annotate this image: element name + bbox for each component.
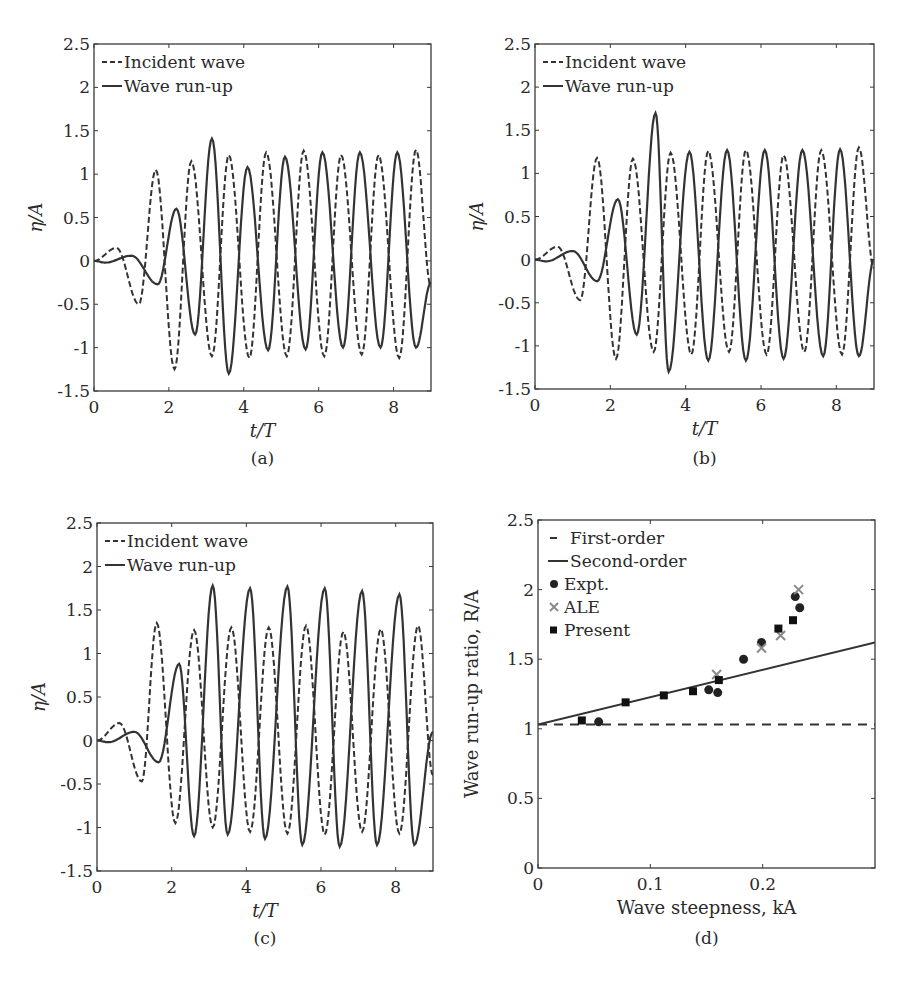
y-tick-label: 1	[523, 719, 534, 739]
legend-label: Incident wave	[124, 52, 245, 72]
y-tick-label: 0.5	[63, 208, 90, 228]
panel-caption: (b)	[692, 448, 716, 468]
panel-b-chart: 02468-1.5-1-0.500.511.522.5t/Tη/A(b)Inci…	[466, 34, 874, 468]
wave-runup-line	[535, 113, 874, 372]
legend-label: Present	[564, 620, 630, 640]
x-axis-label: t/T	[692, 418, 719, 439]
y-tick-label: -1	[73, 338, 90, 358]
x-tick-label: 6	[313, 397, 324, 417]
y-tick-label: -1.5	[60, 861, 93, 881]
x-tick-label: 8	[831, 395, 842, 415]
expt-marker	[713, 688, 722, 697]
expt-marker	[594, 717, 603, 726]
x-tick-label: 0	[533, 874, 544, 894]
y-tick-label: 0.5	[66, 687, 93, 707]
legend-label: Incident wave	[127, 531, 248, 551]
x-tick-label: 0	[530, 395, 541, 415]
legend-label: First-order	[570, 528, 665, 548]
x-tick-label: 2	[605, 395, 616, 415]
present-marker	[689, 687, 697, 695]
x-tick-label: 8	[390, 877, 401, 897]
y-tick-label: 1	[520, 163, 531, 183]
present-marker	[715, 676, 723, 684]
y-tick-label: 0	[520, 250, 531, 270]
plot-series	[97, 586, 433, 847]
plot-series	[535, 113, 874, 372]
plot-area-frame	[538, 520, 875, 868]
y-tick-label: -0.5	[60, 774, 93, 794]
legend-label: Wave run-up	[127, 555, 236, 575]
present-marker	[622, 698, 630, 706]
present-marker	[789, 616, 797, 624]
panel-a-chart: 02468-1.5-1-0.500.511.522.5t/Tη/A(a)Inci…	[25, 34, 431, 468]
present-marker	[774, 625, 782, 633]
y-axis-label: η/A	[28, 682, 49, 712]
panel-caption: (c)	[254, 928, 277, 948]
panel-d-chart: 00.10.200.511.522.5Wave steepness, kAWav…	[461, 510, 875, 948]
expt-marker	[739, 655, 748, 664]
plot-area-frame	[94, 44, 431, 391]
x-tick-label: 4	[680, 395, 691, 415]
legend-label: Wave run-up	[565, 76, 674, 96]
y-tick-label: 1.5	[66, 600, 93, 620]
legend-swatch	[550, 627, 557, 634]
plot-series	[94, 139, 431, 374]
x-axis-label: t/T	[250, 420, 277, 441]
x-tick-label: 4	[238, 397, 249, 417]
expt-marker	[704, 685, 713, 694]
y-axis-label: η/A	[466, 202, 487, 232]
y-tick-label: 1	[82, 644, 93, 664]
x-axis-label: t/T	[252, 900, 279, 921]
incident-wave-line	[94, 150, 431, 369]
legend-label: Wave run-up	[124, 76, 233, 96]
y-tick-label: -1.5	[57, 381, 90, 401]
wave-runup-line	[97, 586, 433, 847]
y-tick-label: 0.5	[504, 207, 531, 227]
y-tick-label: -1.5	[498, 379, 531, 399]
y-axis-label: Wave run-up ratio, R/A	[461, 589, 482, 798]
y-tick-label: 0	[79, 251, 90, 271]
y-tick-label: -1	[514, 336, 531, 356]
y-tick-label: -1	[76, 818, 93, 838]
y-tick-label: 2	[523, 580, 534, 600]
x-tick-label: 6	[316, 877, 327, 897]
panel-caption: (d)	[694, 928, 718, 948]
figure: 02468-1.5-1-0.500.511.522.5t/Tη/A(a)Inci…	[0, 0, 903, 988]
x-tick-label: 2	[166, 877, 177, 897]
legend-swatch	[550, 580, 558, 588]
y-tick-label: 0	[82, 731, 93, 751]
legend-swatch	[550, 603, 558, 611]
expt-marker	[795, 603, 804, 612]
x-tick-label: 0	[89, 397, 100, 417]
panel-c-chart: 02468-1.5-1-0.500.511.522.5t/Tη/A(c)Inci…	[28, 513, 433, 948]
y-tick-label: -0.5	[498, 293, 531, 313]
x-tick-label: 0	[92, 877, 103, 897]
y-tick-label: 2	[79, 77, 90, 97]
y-tick-label: 2	[520, 77, 531, 97]
y-tick-label: 1.5	[507, 649, 534, 669]
present-marker	[660, 691, 668, 699]
y-tick-label: 1.5	[63, 121, 90, 141]
legend-label: Expt.	[564, 574, 609, 594]
y-tick-label: 2.5	[63, 34, 90, 54]
incident-wave-line	[535, 148, 874, 359]
y-tick-label: 2.5	[507, 510, 534, 530]
legend-label: Incident wave	[565, 52, 686, 72]
y-tick-label: 2	[82, 557, 93, 577]
x-tick-label: 6	[756, 395, 767, 415]
x-tick-label: 0.2	[749, 874, 776, 894]
x-tick-label: 2	[163, 397, 174, 417]
ale-marker	[794, 585, 803, 594]
y-tick-label: 1.5	[504, 120, 531, 140]
x-axis-label: Wave steepness, kA	[617, 897, 798, 918]
panel-caption: (a)	[251, 448, 274, 468]
present-marker	[578, 716, 586, 724]
y-tick-label: 0.5	[507, 788, 534, 808]
y-tick-label: 2.5	[504, 34, 531, 54]
x-tick-label: 8	[388, 397, 399, 417]
x-tick-label: 4	[241, 877, 252, 897]
y-tick-label: 0	[523, 858, 534, 878]
y-tick-label: -0.5	[57, 294, 90, 314]
legend-label: Second-order	[570, 551, 687, 571]
legend-label: ALE	[563, 597, 600, 617]
